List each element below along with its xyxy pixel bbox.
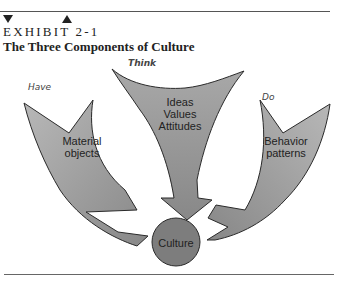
label-line: Attitudes bbox=[150, 120, 210, 132]
label-ideas-values-attitudes: Ideas Values Attitudes bbox=[150, 96, 210, 132]
label-line: objects bbox=[52, 147, 112, 159]
handwritten-note-do: Do bbox=[262, 92, 274, 102]
arrow-material-objects bbox=[24, 100, 148, 246]
label-line: Values bbox=[150, 108, 210, 120]
label-line: Material bbox=[52, 135, 112, 147]
bottom-rule bbox=[4, 274, 334, 275]
label-line: Behavior bbox=[256, 135, 316, 147]
arrow-ideas-values-attitudes bbox=[112, 69, 244, 220]
label-material-objects: Material objects bbox=[52, 135, 112, 159]
label-line: Ideas bbox=[150, 96, 210, 108]
arrow-behavior-patterns bbox=[207, 100, 330, 240]
handwritten-note-have: Have bbox=[28, 82, 51, 92]
label-line: patterns bbox=[256, 147, 316, 159]
label-behavior-patterns: Behavior patterns bbox=[256, 135, 316, 159]
label-culture: Culture bbox=[150, 237, 202, 249]
handwritten-note-think: Think bbox=[128, 58, 156, 68]
